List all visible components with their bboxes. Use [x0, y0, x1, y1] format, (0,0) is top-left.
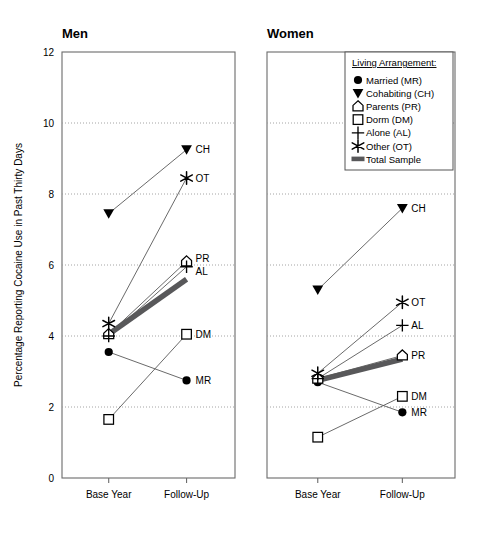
y-axis-title-text: Percentage Reporting Cocaine Use in Past…: [13, 143, 24, 387]
chart-canvas: Percentage Reporting Cocaine Use in Past…: [0, 0, 480, 535]
x-tick-label-base-year: Base Year: [295, 489, 341, 500]
y-tick-label: 8: [48, 189, 54, 200]
series-line-ch: [109, 150, 187, 214]
data-label-men-pr: PR: [196, 253, 210, 264]
data-label-women-ch: CH: [411, 203, 425, 214]
legend-marker-thick-gray-bar-icon: [352, 157, 365, 162]
data-label-men-mr: MR: [196, 375, 212, 386]
marker-asterisk-star-icon: [103, 317, 115, 330]
marker-filled-circle-icon: [105, 348, 113, 356]
data-label-women-mr: MR: [411, 407, 427, 418]
marker-open-square-icon: [182, 329, 192, 339]
panel-title-men: Men: [62, 26, 88, 41]
marker-filled-down-triangle-icon: [103, 209, 114, 219]
data-label-women-dm: DM: [411, 391, 427, 402]
y-tick-label: 12: [43, 47, 55, 58]
data-label-men-dm: DM: [196, 329, 212, 340]
y-tick-label: 0: [48, 473, 54, 484]
legend: Living Arrangement:Married (MR)Cohabitin…: [345, 52, 453, 170]
series-line-dm: [109, 334, 187, 419]
y-axis-title: Percentage Reporting Cocaine Use in Past…: [13, 143, 24, 387]
legend-item-label: Parents (PR): [366, 101, 421, 112]
legend-item-label: Dorm (DM): [366, 114, 413, 125]
series-line-mr: [109, 352, 187, 380]
marker-filled-down-triangle-icon: [181, 145, 192, 155]
marker-filled-circle-icon: [354, 76, 362, 84]
x-tick-label-follow-up: Follow-Up: [380, 489, 425, 500]
legend-item-label: Married (MR): [366, 75, 422, 86]
marker-asterisk-star-icon: [397, 296, 409, 309]
data-label-women-al: AL: [411, 320, 424, 331]
marker-open-square-icon: [398, 392, 408, 402]
marker-open-square-icon: [353, 115, 363, 125]
marker-open-square-icon: [313, 432, 323, 442]
series-line-dm: [318, 396, 403, 437]
data-label-women-pr: PR: [411, 350, 425, 361]
series-line-ch: [318, 208, 403, 290]
panel-men: MenBase YearFollow-UpMRCHPRDMALOT: [62, 26, 235, 500]
marker-asterisk-star-icon: [181, 172, 193, 185]
legend-item-label: Cohabiting (CH): [366, 88, 434, 99]
x-tick-label-follow-up: Follow-Up: [164, 489, 209, 500]
y-tick-label: 10: [43, 118, 55, 129]
chart-figure: Percentage Reporting Cocaine Use in Past…: [0, 0, 480, 535]
data-label-men-ch: CH: [196, 144, 210, 155]
marker-filled-circle-icon: [398, 408, 406, 416]
series-line-pr: [318, 356, 403, 379]
marker-filled-down-triangle-icon: [312, 286, 323, 296]
series-line-mr: [318, 382, 403, 412]
data-label-men-al: AL: [196, 266, 209, 277]
x-tick-label-base-year: Base Year: [86, 489, 132, 500]
marker-open-house-pentagon-icon: [397, 350, 407, 360]
series-line-pr: [109, 261, 187, 334]
legend-title: Living Arrangement:: [352, 57, 437, 68]
marker-thick-gray-bar-icon: [352, 157, 365, 162]
marker-filled-circle-icon: [182, 376, 190, 384]
legend-item-label: Total Sample: [366, 154, 421, 165]
marker-open-square-icon: [104, 415, 114, 425]
data-label-women-ot: OT: [411, 297, 425, 308]
y-tick-label: 6: [48, 260, 54, 271]
y-axis-ticks: 024681012: [43, 47, 55, 484]
legend-marker-open-square-icon: [353, 115, 363, 125]
panel-title-women: Women: [267, 26, 314, 41]
data-label-men-ot: OT: [196, 173, 210, 184]
y-tick-label: 4: [48, 331, 54, 342]
legend-item-label: Alone (AL): [366, 127, 411, 138]
legend-item-label: Other (OT): [366, 141, 412, 152]
y-tick-label: 2: [48, 402, 54, 413]
marker-plus-cross-icon: [396, 319, 408, 331]
legend-marker-filled-circle-icon: [354, 76, 362, 84]
